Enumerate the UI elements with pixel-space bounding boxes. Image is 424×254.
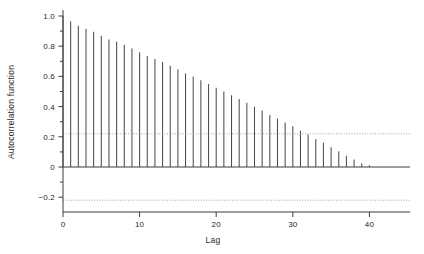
x-tick-label: 10 — [135, 220, 145, 229]
x-axis-title: Lag — [206, 235, 221, 245]
x-tick-label: 40 — [365, 220, 375, 229]
y-axis-title: Autocorrelation function — [6, 65, 16, 159]
y-tick-label: 0.2 — [43, 133, 55, 142]
y-tick-label: −0.2 — [38, 193, 55, 202]
x-tick-label: 20 — [212, 220, 222, 229]
x-tick-label: 0 — [61, 220, 66, 229]
y-tick-label: 1.0 — [43, 12, 55, 21]
x-tick-label: 30 — [288, 220, 298, 229]
plot-background — [0, 0, 424, 254]
y-tick-label: 0.6 — [43, 72, 55, 81]
y-tick-label: 0 — [50, 163, 55, 172]
y-tick-label: 0.4 — [43, 103, 55, 112]
y-tick-label: 0.8 — [43, 42, 55, 51]
acf-plot: 1.00.80.60.40.20−0.2 010203040 Autocorre… — [0, 0, 424, 254]
